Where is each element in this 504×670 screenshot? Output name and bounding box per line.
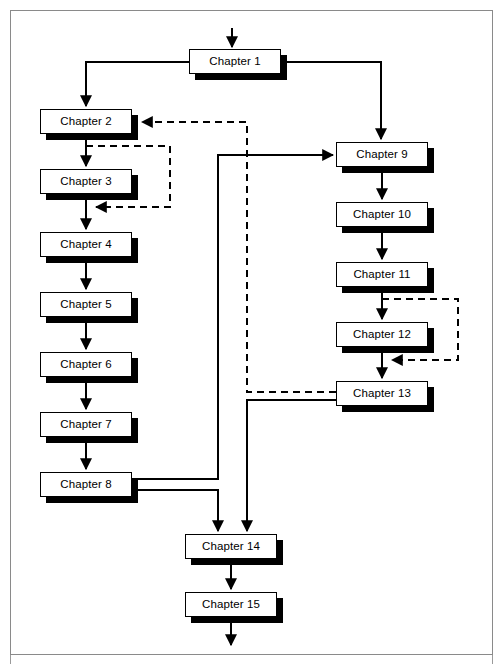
edge-ch13-feedback-ch2: [142, 122, 336, 392]
node-ch15[interactable]: Chapter 15: [185, 592, 277, 617]
node-ch4[interactable]: Chapter 4: [40, 232, 132, 257]
edge-ch8-to-ch14: [132, 490, 218, 531]
edge-ch13-to-ch14: [247, 400, 336, 531]
page-root: Chapter 1Chapter 2Chapter 3Chapter 4Chap…: [0, 0, 504, 670]
node-ch13[interactable]: Chapter 13: [336, 381, 428, 406]
node-ch7[interactable]: Chapter 7: [40, 412, 132, 437]
node-label-ch2: Chapter 2: [60, 116, 111, 128]
node-label-ch13: Chapter 13: [353, 388, 411, 400]
node-label-ch7: Chapter 7: [60, 419, 111, 431]
node-label-ch3: Chapter 3: [60, 176, 111, 188]
node-ch6[interactable]: Chapter 6: [40, 352, 132, 377]
node-label-ch1: Chapter 1: [209, 56, 260, 68]
node-label-ch15: Chapter 15: [202, 599, 260, 611]
node-label-ch5: Chapter 5: [60, 299, 111, 311]
node-ch14[interactable]: Chapter 14: [185, 534, 277, 559]
node-label-ch9: Chapter 9: [356, 149, 407, 161]
edge-ch1-to-ch9: [281, 62, 381, 139]
node-ch10[interactable]: Chapter 10: [336, 202, 428, 227]
node-ch9[interactable]: Chapter 9: [336, 142, 428, 167]
node-label-ch10: Chapter 10: [353, 209, 411, 221]
node-label-ch12: Chapter 12: [353, 329, 411, 341]
node-ch5[interactable]: Chapter 5: [40, 292, 132, 317]
node-label-ch11: Chapter 11: [353, 269, 410, 281]
node-ch1[interactable]: Chapter 1: [189, 49, 281, 74]
node-ch2[interactable]: Chapter 2: [40, 109, 132, 134]
edge-ch8-to-ch9: [132, 155, 333, 479]
node-label-ch8: Chapter 8: [60, 479, 111, 491]
node-label-ch4: Chapter 4: [60, 239, 111, 251]
node-ch12[interactable]: Chapter 12: [336, 322, 428, 347]
node-ch8[interactable]: Chapter 8: [40, 472, 132, 497]
node-label-ch6: Chapter 6: [60, 359, 111, 371]
node-ch11[interactable]: Chapter 11: [336, 262, 428, 287]
node-ch3[interactable]: Chapter 3: [40, 169, 132, 194]
edge-ch1-to-ch2: [86, 62, 189, 106]
node-label-ch14: Chapter 14: [202, 541, 260, 553]
